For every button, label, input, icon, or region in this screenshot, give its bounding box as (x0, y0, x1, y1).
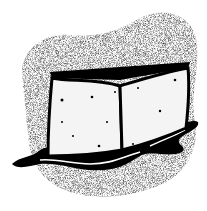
cube-front-face (48, 78, 122, 156)
melting-ice-cube-illustration (0, 0, 207, 211)
